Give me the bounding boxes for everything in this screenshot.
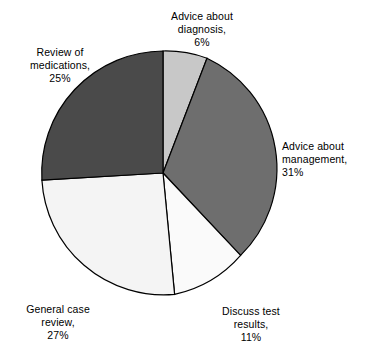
pie-slice-general-case-review — [42, 173, 175, 295]
pie-label-advice-about-diagnosis: Advice about diagnosis, 6% — [150, 10, 254, 49]
pie-label-review-of-medications: Review of medications, 25% — [14, 46, 106, 85]
pie-chart: Advice about diagnosis, 6% Advice about … — [0, 0, 368, 352]
pie-label-discuss-test-results: Discuss test results, 11% — [205, 305, 297, 344]
pie-label-advice-about-management: Advice about management, 31% — [282, 140, 366, 179]
pie-label-general-case-review: General case review, 27% — [6, 303, 110, 342]
